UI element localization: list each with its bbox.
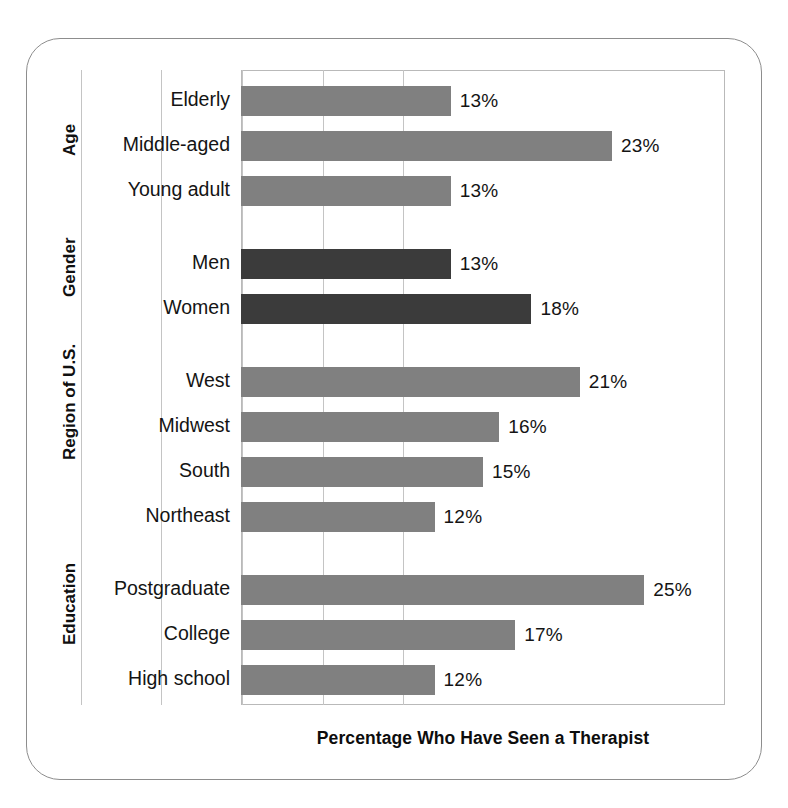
bar-elderly[interactable] (241, 86, 451, 116)
bar-row[interactable]: 13% (241, 249, 725, 279)
category-label-high-school: High school (30, 667, 230, 690)
bar-value-label: 12% (444, 669, 483, 691)
bar-value-label: 25% (653, 579, 692, 601)
x-axis-title: Percentage Who Have Seen a Therapist (241, 728, 725, 749)
bar-row[interactable]: 21% (241, 367, 725, 397)
category-label-south: South (30, 459, 230, 482)
bar-value-label: 12% (444, 506, 483, 528)
bar-row[interactable]: 16% (241, 412, 725, 442)
bar-row[interactable]: 15% (241, 457, 725, 487)
bar-value-label: 13% (460, 180, 499, 202)
bar-value-label: 18% (540, 298, 579, 320)
category-label-northeast: Northeast (30, 504, 230, 527)
category-label-women: Women (30, 296, 230, 319)
bar-value-label: 15% (492, 461, 531, 483)
bar-women[interactable] (241, 294, 531, 324)
bar-middle-aged[interactable] (241, 131, 612, 161)
bar-college[interactable] (241, 620, 515, 650)
bar-value-label: 13% (460, 253, 499, 275)
bar-value-label: 17% (524, 624, 563, 646)
bar-value-label: 16% (508, 416, 547, 438)
bar-chart: 13%23%13%13%18%21%16%15%12%25%17%12% Eld… (0, 0, 788, 808)
category-label-young-adult: Young adult (30, 178, 230, 201)
bar-value-label: 23% (621, 135, 660, 157)
bar-northeast[interactable] (241, 502, 435, 532)
bar-value-label: 21% (589, 371, 628, 393)
group-label-region-of-u-s-: Region of U.S. (58, 438, 82, 462)
bar-west[interactable] (241, 367, 580, 397)
bar-row[interactable]: 12% (241, 665, 725, 695)
bar-row[interactable]: 17% (241, 620, 725, 650)
category-label-elderly: Elderly (30, 88, 230, 111)
bar-row[interactable]: 18% (241, 294, 725, 324)
bar-south[interactable] (241, 457, 483, 487)
bar-row[interactable]: 25% (241, 575, 725, 605)
bar-men[interactable] (241, 249, 451, 279)
bar-row[interactable]: 13% (241, 86, 725, 116)
bar-high-school[interactable] (241, 665, 435, 695)
bar-young-adult[interactable] (241, 176, 451, 206)
bar-midwest[interactable] (241, 412, 499, 442)
group-label-age: Age (58, 134, 82, 158)
bar-row[interactable]: 23% (241, 131, 725, 161)
bar-postgraduate[interactable] (241, 575, 644, 605)
group-label-education: Education (58, 623, 82, 647)
bar-value-label: 13% (460, 90, 499, 112)
group-label-gender: Gender (58, 275, 82, 299)
bar-row[interactable]: 12% (241, 502, 725, 532)
bar-row[interactable]: 13% (241, 176, 725, 206)
